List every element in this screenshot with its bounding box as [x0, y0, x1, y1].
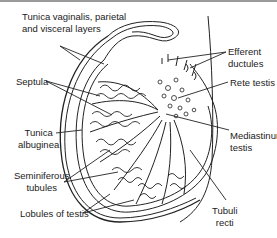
tunica-vaginalis-parietal [60, 36, 200, 222]
label-tunica-albuginea-line1: Tunica [18, 127, 59, 139]
label-mediastinum-line1: Mediastinum [230, 130, 277, 142]
label-seminiferous-tubules: Seminiferous tubules [14, 170, 69, 193]
label-seminiferous-line2: tubules [14, 182, 69, 194]
label-tubuli-recti: Tubuli recti [212, 205, 238, 228]
label-rete-testis: Rete testis [230, 77, 275, 89]
label-lobules-of-testis: Lobules of testis [20, 208, 89, 220]
label-efferent-line2: ductules [228, 58, 263, 70]
testis-diagram [0, 0, 277, 238]
tunica-albuginea [76, 60, 217, 212]
label-tunica-vaginalis: Tunica vaginalis, parietal and visceral … [22, 11, 126, 34]
label-tunica-vaginalis-line1: Tunica vaginalis, parietal [22, 11, 126, 23]
label-tunica-vaginalis-line2: and visceral layers [22, 23, 126, 35]
label-tunica-albuginea-line2: albuginea [18, 139, 59, 151]
label-tunica-albuginea: Tunica albuginea [18, 127, 59, 150]
label-tubuli-line1: Tubuli [212, 205, 238, 217]
label-seminiferous-line1: Seminiferous [14, 170, 69, 182]
efferent-ductules [162, 54, 196, 80]
label-efferent-ductules: Efferent ductules [228, 46, 263, 69]
label-septula: Septula [16, 76, 48, 88]
label-tubuli-line2: recti [212, 217, 238, 229]
rete-testis [158, 78, 196, 118]
label-mediastinum-line2: testis [230, 142, 277, 154]
label-efferent-line1: Efferent [228, 46, 263, 58]
label-mediastinum-testis: Mediastinum testis [230, 130, 277, 153]
